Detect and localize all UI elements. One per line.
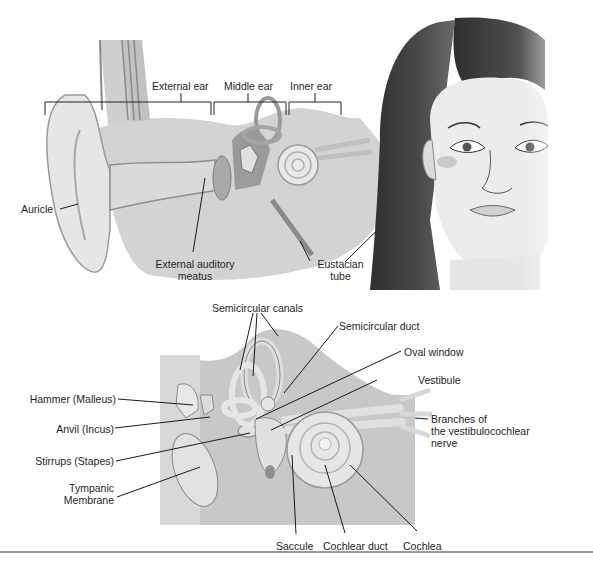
label-inner-ear: Inner ear (290, 80, 332, 92)
label-tympanic-membrane: Tympanic Membrane (10, 482, 114, 506)
label-semicircular-canals: Semicircular canals (212, 302, 303, 314)
outer-ear-section (47, 40, 395, 280)
label-external-ear: External ear (152, 80, 209, 92)
label-stirrups: Stirrups (Stapes) (10, 455, 114, 467)
inner-ear-section (160, 329, 432, 525)
label-anvil: Anvil (Incus) (10, 423, 114, 435)
divider-rule (0, 551, 593, 553)
face-illustration (370, 0, 593, 300)
label-semicircular-duct: Semicircular duct (339, 320, 420, 332)
label-oval-window: Oval window (404, 346, 464, 358)
label-eustachian-tube: Eustacian tube (313, 258, 368, 282)
label-auricle: Auricle (21, 203, 53, 215)
label-vestibule: Vestibule (418, 374, 461, 386)
label-middle-ear: Middle ear (224, 80, 273, 92)
label-branches-vestibulocochlear-nerve: Branches of the vestibulocochlear nerve (431, 413, 530, 449)
label-hammer: Hammer (Malleus) (10, 393, 116, 405)
label-external-auditory-meatus: External auditory meatus (150, 258, 240, 282)
